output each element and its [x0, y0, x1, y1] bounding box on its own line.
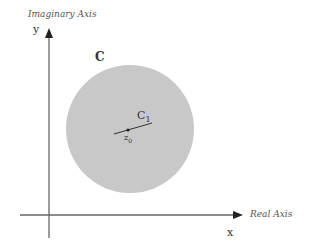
x-axis-title: Real Axis — [250, 209, 292, 219]
y-axis-arrow-icon — [45, 28, 53, 38]
inner-contour-label: C1 — [137, 109, 151, 124]
y-axis-title: Imaginary Axis — [28, 9, 97, 19]
y-axis-symbol: y — [33, 23, 39, 36]
inner-contour-subscript: 1 — [145, 115, 150, 124]
x-axis-symbol: x — [227, 226, 233, 239]
center-point-subscript: 0 — [128, 137, 132, 144]
circle-label: C — [95, 50, 105, 64]
x-axis-arrow-icon — [233, 211, 243, 219]
center-point-label: z0 — [124, 133, 132, 144]
center-point-dot — [126, 128, 129, 131]
